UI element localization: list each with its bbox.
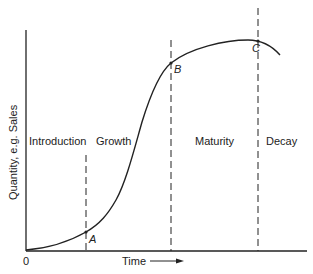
y-axis-label: Quantity, e.g. Sales [8,105,19,200]
x-axis-label: Time [122,256,146,267]
point-a-label: A [89,234,96,245]
time-arrow-head [176,259,184,264]
point-b-label: B [174,64,181,75]
stage-decay: Decay [266,136,297,147]
stage-growth: Growth [96,136,131,147]
origin-label: 0 [23,256,29,267]
stage-introduction: Introduction [29,136,86,147]
stage-maturity: Maturity [195,136,234,147]
point-a-marker [84,230,87,233]
point-c-label: C [252,43,260,54]
point-b-marker [169,61,172,64]
